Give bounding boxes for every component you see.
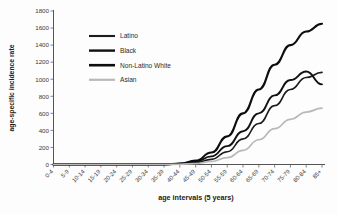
x-tick-label: 30-34 (134, 168, 149, 183)
y-tick-label: 1800 (35, 7, 49, 14)
y-tick-label: 1600 (35, 24, 49, 31)
legend-label-non-latino-white: Non-Latino White (120, 62, 171, 69)
x-tick-label: 40-44 (166, 168, 181, 183)
series-line-latino (54, 72, 323, 164)
y-tick-label: 0 (46, 161, 50, 168)
data-series-group (54, 24, 323, 165)
x-tick-label: 75-79 (276, 168, 291, 183)
legend-label-black: Black (120, 47, 137, 54)
series-line-black (54, 72, 323, 165)
x-tick-label: 65-69 (245, 168, 260, 183)
y-tick-label: 400 (39, 127, 50, 134)
x-tick-label: 60-64 (229, 168, 244, 183)
x-tick-label: 85+ (311, 168, 323, 180)
y-tick-label: 1400 (35, 41, 49, 48)
line-chart: 020040060080010001200140016001800 0-45-9… (0, 0, 337, 215)
series-line-asian (54, 108, 323, 164)
x-tick-label: 15-19 (87, 168, 102, 183)
series-line-non-latino-white (54, 24, 323, 165)
x-tick-label: 70-74 (260, 168, 275, 183)
y-tick-label: 1200 (35, 58, 49, 65)
y-tick-label: 200 (39, 144, 50, 151)
y-tick-label: 800 (39, 93, 50, 100)
x-tick-label: 35-39 (150, 168, 165, 183)
x-tick-label: 50-54 (197, 168, 212, 183)
x-axis-title: age intervals (5 years) (158, 193, 234, 202)
y-axis-tick-labels: 020040060080010001200140016001800 (35, 7, 49, 168)
x-tick-label: 80-84 (292, 168, 307, 183)
x-tick-label: 10-14 (71, 168, 86, 183)
legend-label-asian: Asian (120, 76, 137, 83)
y-axis-title: age-specific incidence rate (8, 44, 16, 131)
x-tick-label: 20-24 (102, 168, 117, 183)
chart-figure: 020040060080010001200140016001800 0-45-9… (0, 0, 337, 215)
x-axis-tick-labels: 0-45-910-1415-1920-2425-2930-3435-3940-4… (44, 168, 323, 183)
x-tick-label: 5-9 (60, 168, 70, 178)
x-tick-label: 0-4 (44, 168, 55, 179)
legend-label-latino: Latino (120, 32, 138, 39)
x-tick-label: 45-49 (181, 168, 196, 183)
x-tick-label: 25-29 (118, 168, 133, 183)
chart-legend: LatinoBlackNon-Latino WhiteAsian (89, 32, 171, 83)
x-tick-label: 55-59 (213, 168, 228, 183)
y-tick-label: 1000 (35, 76, 49, 83)
y-tick-label: 600 (39, 110, 50, 117)
